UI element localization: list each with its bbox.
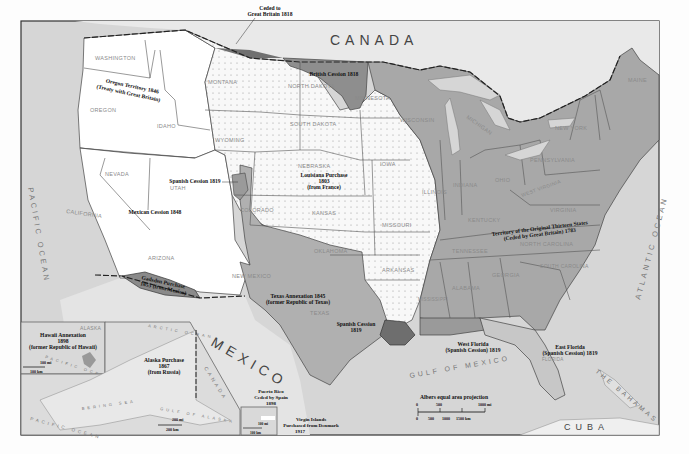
- label-oklahoma: OKLAHOMA: [314, 248, 348, 254]
- hawaii-scale-km: 100 km: [30, 369, 43, 374]
- label-montana: MONTANA: [208, 79, 237, 85]
- label-colorado: COLORADO: [240, 207, 274, 213]
- virgin-islands-line1: Virgin Islands: [296, 417, 326, 422]
- ceded-gb-line2: Great Britain 1818: [248, 11, 293, 17]
- label-new-york: NEW YORK: [555, 125, 587, 131]
- label-florida: FLORIDA: [542, 357, 564, 362]
- spanish-cession-utah-label: Spanish Cession 1819: [169, 178, 220, 184]
- label-alabama: ALABAMA: [452, 285, 480, 291]
- label-wisconsin: WISCONSIN: [400, 117, 434, 123]
- label-arkansas: ARKANSAS: [382, 267, 414, 273]
- scale-mi-500: 500: [436, 402, 442, 407]
- scale-km-1500: 1500 km: [456, 416, 471, 421]
- alaska-scale-mi: 200 mi: [172, 417, 184, 422]
- label-kansas: KANSAS: [312, 210, 336, 216]
- label-iowa: IOWA: [380, 161, 396, 167]
- projection-note: Albers equal area projection: [420, 394, 489, 400]
- alaska-scale-km: 200 km: [166, 427, 179, 432]
- hawaii-scale-mi: 100 mi: [40, 360, 52, 365]
- pr-scale-km: 100 km: [250, 431, 261, 435]
- virgin-islands-line2: Purchased from Denmark: [283, 423, 339, 428]
- territorial-expansion-map: ALASKA Hawaii Annexation 1898 (former Re…: [0, 0, 689, 454]
- label-utah: UTAH: [170, 185, 186, 191]
- label-canada: CANADA: [330, 32, 418, 48]
- label-nebraska: NEBRASKA: [298, 163, 330, 169]
- scale-km-500: 500: [428, 416, 434, 421]
- label-idaho: IDAHO: [157, 123, 176, 129]
- label-georgia: GEORGIA: [492, 272, 520, 278]
- british-cession-label: British Cession 1818: [310, 71, 359, 77]
- label-oregon: OREGON: [90, 107, 116, 113]
- alaska-purchase-line3: (from Russia): [148, 369, 181, 376]
- scale-mi-0: 0: [416, 402, 418, 407]
- scale-km-0: 0: [416, 416, 418, 421]
- texas-annex-line2: (former Republic of Texas): [266, 299, 330, 306]
- east-florida-line2: (Spanish Cession) 1819: [542, 350, 597, 357]
- scale-mi-1000: 1000 mi: [478, 402, 492, 407]
- pr-scale-mi: 100 mi: [258, 422, 268, 426]
- label-arizona: ARIZONA: [148, 255, 175, 261]
- hawaii-annex-line3: (former Republic of Hawaii): [29, 344, 97, 351]
- puerto-rico-line3: 1898: [266, 401, 277, 406]
- puerto-rico-line1: Puerto Rico: [258, 389, 284, 394]
- puerto-rico-inset: 100 mi 100 km: [241, 407, 277, 435]
- mexican-cession-label: Mexican Cession 1848: [129, 209, 182, 215]
- label-ohio: OHIO: [495, 177, 511, 183]
- louisiana-line3: (from France): [307, 184, 341, 191]
- scale-km-1000: 1000: [442, 416, 450, 421]
- label-texas: TEXAS: [310, 310, 330, 316]
- label-kentucky: KENTUCKY: [468, 217, 500, 223]
- label-nevada: NEVADA: [105, 171, 129, 177]
- label-maine: MAINE: [628, 77, 647, 83]
- west-florida-line2: (Spanish Cession) 1819: [445, 347, 500, 354]
- label-south-carolina: SOUTH CAROLINA: [540, 263, 589, 269]
- label-hawaii: ALASKA: [80, 325, 102, 331]
- label-tennessee: TENNESSEE: [452, 248, 488, 254]
- label-mississippi: MISSISSIPPI: [418, 297, 448, 302]
- label-north-dakota: NORTH DAKOTA: [288, 83, 335, 89]
- label-north-carolina: NORTH CAROLINA: [520, 241, 573, 247]
- spanish-cession-tx-line2: 1819: [350, 327, 361, 333]
- label-minnesota: MINNESOTA: [355, 95, 390, 101]
- label-pennsylvania: PENNSYLVANIA: [530, 157, 575, 163]
- puerto-rico-line2: Ceded by Spain: [254, 395, 288, 400]
- label-new-mexico: NEW MEXICO: [232, 273, 271, 279]
- label-virginia: VIRGINIA: [550, 207, 577, 213]
- label-missouri: MISSOURI: [382, 222, 412, 228]
- virgin-islands-line3: 1917: [295, 429, 306, 434]
- label-cuba: CUBA: [564, 422, 609, 432]
- label-south-dakota: SOUTH DAKOTA: [290, 121, 337, 127]
- hawaii-inset: ALASKA Hawaii Annexation 1898 (former Re…: [21, 322, 113, 381]
- label-wyoming: WYOMING: [215, 137, 245, 143]
- label-indiana: INDIANA: [453, 182, 477, 188]
- label-illinois: ILLINOIS: [422, 189, 447, 195]
- label-washington: WASHINGTON: [95, 55, 136, 61]
